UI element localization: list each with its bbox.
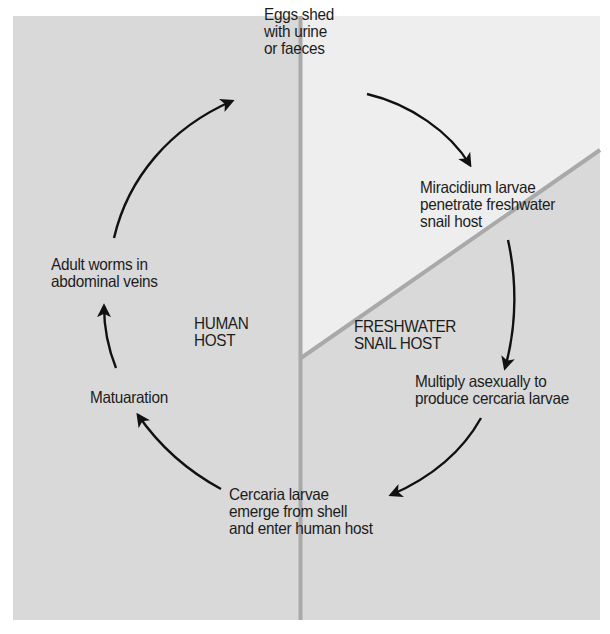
- stage-cercaria: Cercaria larvae emerge from shell and en…: [229, 486, 373, 537]
- region-label-human-host: HUMAN HOST: [194, 315, 248, 349]
- stage-maturation: Matuaration: [90, 389, 168, 406]
- region-label-snail-host: FRESHWATER SNAIL HOST: [354, 318, 456, 352]
- stage-adult: Adult worms in abdominal veins: [51, 256, 158, 290]
- stage-miracidium: Miracidium larvae penetrate freshwater s…: [420, 179, 555, 230]
- diagram-canvas: [0, 0, 610, 634]
- life-cycle-diagram: Eggs shed with urine or faeces Miracidiu…: [0, 0, 610, 634]
- stage-eggs: Eggs shed with urine or faeces: [264, 6, 334, 57]
- stage-multiply: Multiply asexually to produce cercaria l…: [415, 373, 569, 407]
